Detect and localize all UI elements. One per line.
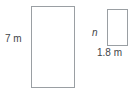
small-rectangle-width-label: 1.8 m	[97, 47, 122, 58]
geometry-figure: . 7 m n 1.8 m	[0, 0, 134, 92]
small-rectangle	[107, 9, 128, 46]
small-rectangle-height-label: n	[92, 27, 98, 38]
large-rectangle-height-label: 7 m	[5, 33, 22, 44]
large-rectangle	[31, 6, 75, 88]
